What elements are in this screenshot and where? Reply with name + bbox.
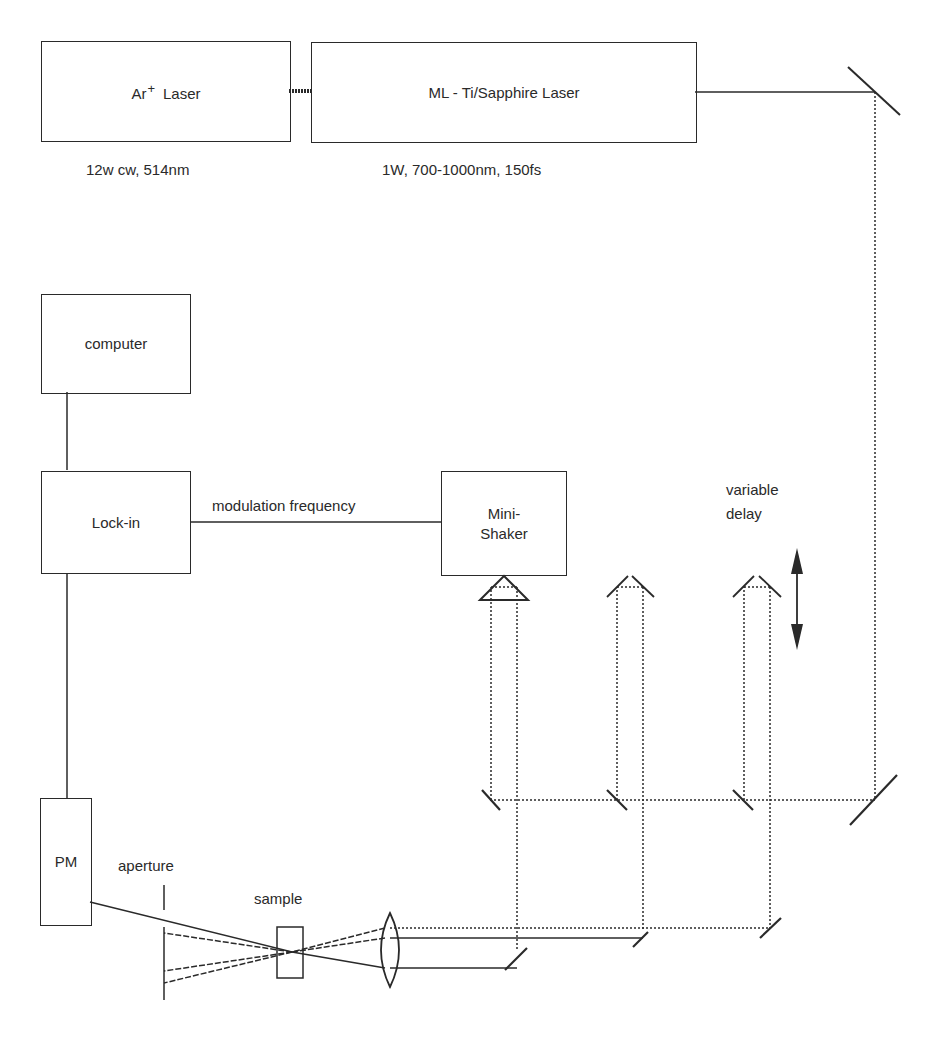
ti-sapphire-laser-spec: 1W, 700-1000nm, 150fs [382,160,541,180]
pm-label: PM [55,852,78,872]
ti-sapphire-laser-label: ML - Ti/Sapphire Laser [428,83,579,103]
lock-in-box: Lock-in [41,471,191,574]
setup-diagram: Ar+Laser 12w cw, 514nm ML - Ti/Sapphire … [0,0,939,1041]
mirror-top-right [848,67,900,115]
mirror-lower-2 [633,932,648,947]
retroreflector-delay [733,576,754,597]
mini-shaker-label-line2: Shaker [480,524,528,544]
ar-laser-spec: 12w cw, 514nm [86,160,189,180]
mirror-lower-1 [505,948,527,970]
pm-box: PM [40,798,92,926]
sample-label: sample [254,889,302,909]
ti-sapphire-laser-box: ML - Ti/Sapphire Laser [311,42,697,143]
lock-in-label: Lock-in [92,513,140,533]
computer-label: computer [85,334,148,354]
mirror-bottom-right [850,775,897,825]
aperture-label: aperture [118,856,174,876]
ar-laser-label: Ar+Laser [131,79,200,104]
retroreflector-shaker [480,576,528,600]
ar-laser-box: Ar+Laser [41,41,291,142]
computer-box: computer [41,294,191,394]
modulation-frequency-label: modulation frequency [212,496,355,516]
variable-delay-label: variable delay [726,478,779,526]
mini-shaker-box: Mini- Shaker [441,471,567,576]
lens [381,913,399,987]
mini-shaker-label-line1: Mini- [488,504,521,524]
